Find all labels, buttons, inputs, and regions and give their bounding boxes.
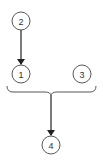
node-3: 3 [73, 65, 91, 83]
diagram-svg: 2 1 3 4 [0, 0, 103, 164]
node-1-label: 1 [18, 70, 23, 80]
node-1: 1 [12, 65, 30, 83]
node-2-label: 2 [18, 17, 23, 27]
node-3-label: 3 [79, 70, 84, 80]
node-4-label: 4 [48, 141, 53, 151]
node-4: 4 [42, 136, 60, 154]
curly-brace-group-1-3 [7, 86, 96, 96]
diagram-canvas: 2 1 3 4 [0, 0, 103, 164]
node-2: 2 [12, 12, 30, 30]
